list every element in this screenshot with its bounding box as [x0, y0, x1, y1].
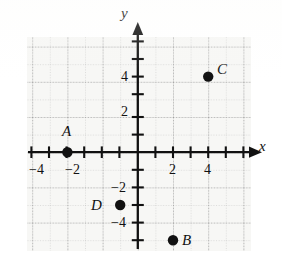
x-tick-label-2: 2 [169, 163, 176, 177]
point-label-b: B [182, 233, 191, 248]
point-label-c: C [217, 62, 227, 77]
graph-vector-layer [0, 0, 282, 264]
y-tick-label-neg4: −4 [111, 216, 126, 230]
y-tick-label-neg2: −2 [111, 181, 126, 195]
point-label-a: A [62, 124, 71, 139]
x-tick-label-4: 4 [204, 163, 211, 177]
point-c-marker [203, 71, 213, 81]
point-b-marker [168, 235, 178, 245]
x-axis-label: x [259, 139, 266, 154]
point-a-marker [62, 147, 72, 157]
point-d-marker [115, 200, 125, 210]
plot-area: x y −4 −2 2 4 4 2 −2 −4 A B C D [0, 0, 282, 264]
x-tick-label-neg2: −2 [65, 163, 80, 177]
coordinate-plane-figure: x y −4 −2 2 4 4 2 −2 −4 A B C D [0, 0, 282, 264]
x-tick-label-neg4: −4 [29, 163, 44, 177]
y-tick-label-2: 2 [121, 105, 128, 119]
point-label-d: D [91, 198, 102, 213]
y-tick-label-4: 4 [121, 70, 128, 84]
y-axis-label: y [121, 6, 128, 21]
